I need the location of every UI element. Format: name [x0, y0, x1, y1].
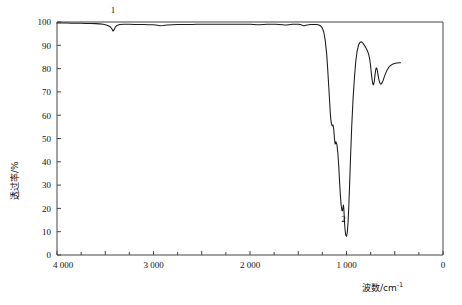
y-tick-label: 20 — [42, 204, 52, 214]
x-tick-label: 4 000 — [53, 260, 74, 270]
x-axis-title-main: 波数/cm — [362, 282, 397, 293]
peak-label-1: 1 — [111, 5, 116, 15]
y-tick-label: 70 — [42, 87, 52, 97]
y-tick-label: 0 — [47, 250, 52, 260]
y-axis-title: 透过率/% — [9, 161, 20, 200]
y-tick-label: 50 — [42, 134, 52, 144]
x-axis-title-exponent: -1 — [397, 281, 403, 289]
y-tick-label: 30 — [42, 180, 52, 190]
y-tick-label: 40 — [42, 157, 52, 167]
ftir-spectrum-figure: 4 0003 0002 0001 0000 100908070605040302… — [0, 0, 462, 305]
x-tick-label: 3 000 — [143, 260, 164, 270]
y-tick-label: 90 — [42, 41, 52, 51]
peak-label-2: 2 — [341, 214, 346, 224]
x-tick-label: 0 — [441, 260, 446, 270]
x-tick-label: 2 000 — [240, 260, 261, 270]
spectrum-svg: 4 0003 0002 0001 0000 100908070605040302… — [0, 0, 462, 305]
y-tick-label: 100 — [38, 17, 52, 27]
x-tick-label: 1 000 — [336, 260, 357, 270]
y-tick-label: 60 — [42, 111, 52, 121]
y-tick-label: 80 — [42, 64, 52, 74]
y-tick-label: 10 — [42, 227, 52, 237]
